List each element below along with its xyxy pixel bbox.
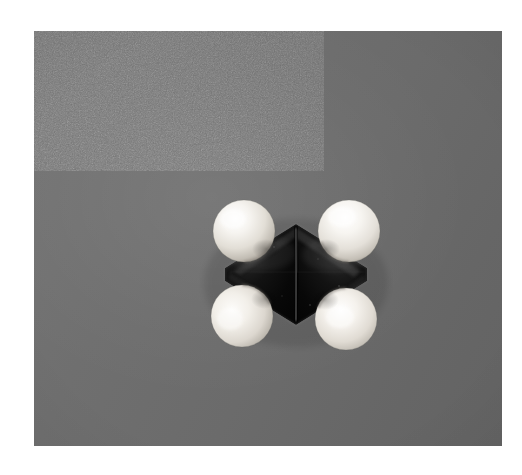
carbon-carbon-seam <box>296 226 298 323</box>
molecule-svg <box>34 31 502 446</box>
photograph <box>34 31 502 446</box>
page-canvas <box>0 0 522 475</box>
molecular-model <box>34 31 502 446</box>
